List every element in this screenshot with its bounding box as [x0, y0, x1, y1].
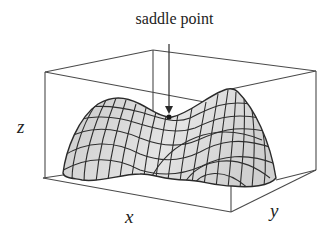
x-axis-label: x: [125, 207, 133, 226]
saddle-point-label: saddle point: [0, 11, 333, 27]
saddle-surface-figure: saddle point z x y: [0, 0, 333, 232]
surface-plot: [0, 0, 333, 232]
y-axis-label: y: [270, 201, 278, 220]
z-axis-label: z: [17, 117, 24, 136]
saddle-point-marker: [165, 44, 173, 120]
